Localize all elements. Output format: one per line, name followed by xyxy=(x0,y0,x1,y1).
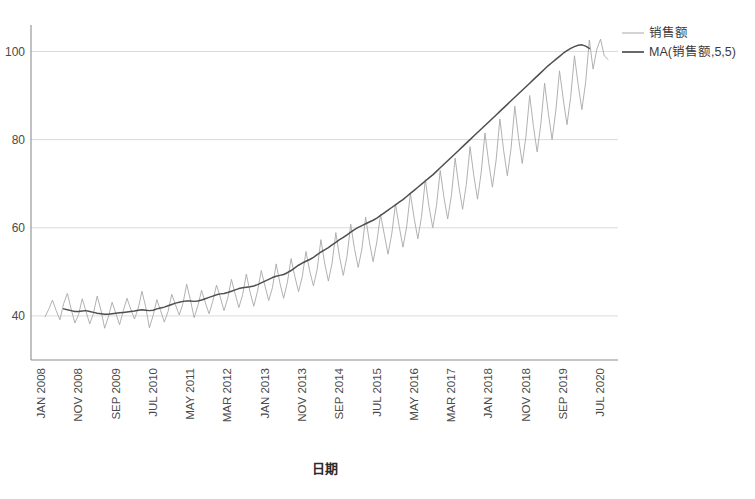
y-tick-label: 80 xyxy=(12,133,26,147)
x-tick-label: SEP 2009 xyxy=(110,368,122,420)
x-tick-label: SEP 2019 xyxy=(557,368,569,420)
x-tick-label: MAY 2011 xyxy=(184,368,196,420)
x-tick-label: MAR 2017 xyxy=(445,368,457,422)
time-series-chart: 406080100 JAN 2008NOV 2008SEP 2009JUL 20… xyxy=(0,0,755,499)
y-tick-label: 100 xyxy=(5,45,25,59)
x-tick-label: NOV 2018 xyxy=(520,368,532,422)
legend-label: 销售额 xyxy=(649,25,688,40)
x-tick-label: NOV 2013 xyxy=(296,368,308,422)
x-tick-label: SEP 2014 xyxy=(333,367,345,419)
x-tick-label: JAN 2018 xyxy=(482,368,494,419)
x-tick-label: NOV 2008 xyxy=(72,368,84,422)
x-tick-label: JUL 2015 xyxy=(371,368,383,417)
x-tick-label: MAY 2016 xyxy=(408,368,420,421)
x-tick-label: JUL 2010 xyxy=(147,368,159,417)
chart-background xyxy=(0,0,755,499)
x-axis-title: 日期 xyxy=(312,461,338,476)
x-tick-label: MAR 2012 xyxy=(221,368,233,422)
legend-label: MA(销售额,5,5) xyxy=(649,44,736,59)
y-tick-label: 60 xyxy=(12,221,26,235)
x-tick-label: JAN 2008 xyxy=(35,368,47,419)
x-tick-label: JUL 2020 xyxy=(594,368,606,417)
x-tick-label: JAN 2013 xyxy=(259,368,271,419)
chart-canvas: 406080100 JAN 2008NOV 2008SEP 2009JUL 20… xyxy=(0,0,755,499)
y-tick-label: 40 xyxy=(12,309,26,323)
